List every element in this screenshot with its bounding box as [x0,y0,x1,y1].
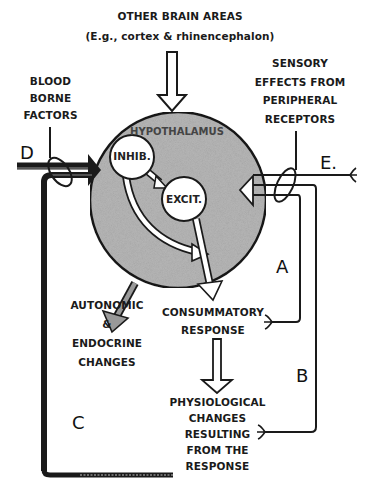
arrow-consummatory-to-physiological [202,339,232,393]
other-brain-areas-label: OTHER BRAIN AREAS (E.g., cortex & rhinen… [80,8,280,45]
letter-e: E. [320,152,337,173]
other-brain-areas-line2: (E.g., cortex & rhinencephalon) [80,28,280,45]
autonomic-endocrine-label: AUTONOMIC & ENDOCRINE CHANGES [62,296,152,372]
hypothalamus-diagram: OTHER BRAIN AREAS (E.g., cortex & rhinen… [0,0,370,484]
inhib-label: INHIB. [110,150,154,162]
letter-b: B [296,365,308,386]
letter-c: C [72,412,85,433]
letter-d: D [20,142,34,163]
consummatory-response-label: CONSUMMATORY RESPONSE [158,303,268,339]
excit-label: EXCIT. [162,193,206,205]
letter-a: A [276,256,288,277]
blood-borne-factors-label: BLOOD BORNE FACTORS [18,73,83,124]
hypothalamus-label: HYPOTHALAMUS [122,126,232,137]
sensory-effects-label: SENSORY EFFECTS FROM PERIPHERAL RECEPTOR… [250,54,350,128]
arrow-other-brain-areas [158,52,186,111]
feedback-line-c [44,470,173,475]
physiological-changes-label: PHYSIOLOGICAL CHANGES RESULTING FROM THE… [165,394,270,474]
other-brain-areas-line1: OTHER BRAIN AREAS [80,8,280,25]
blood-borne-connector [43,127,76,190]
